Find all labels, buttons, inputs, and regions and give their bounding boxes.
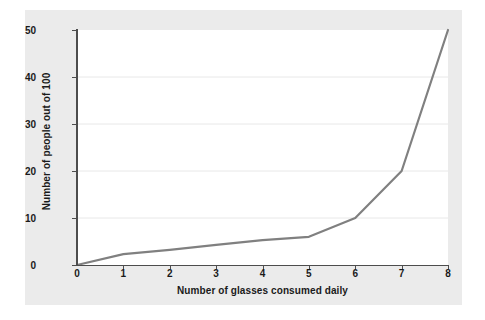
y-tick-label: 50 <box>0 25 36 36</box>
x-tick-label: 8 <box>433 268 463 279</box>
x-tick-label: 6 <box>340 268 370 279</box>
y-tick-mark <box>72 124 76 125</box>
x-tick-mark <box>309 265 310 269</box>
y-tick-mark <box>72 30 76 31</box>
figure-inner: Number of people out of 100 01020304050 … <box>25 10 462 305</box>
x-tick-label: 0 <box>62 268 92 279</box>
x-tick-label: 5 <box>294 268 324 279</box>
figure-panel: Number of people out of 100 01020304050 … <box>25 10 462 305</box>
line-series <box>77 30 448 265</box>
x-tick-mark <box>216 265 217 269</box>
y-tick-label: 20 <box>0 166 36 177</box>
plot-area <box>77 30 448 265</box>
x-tick-label: 4 <box>248 268 278 279</box>
x-tick-mark <box>402 265 403 269</box>
y-tick-mark <box>72 171 76 172</box>
x-tick-label: 1 <box>108 268 138 279</box>
x-tick-mark <box>123 265 124 269</box>
x-axis-title: Number of glasses consumed daily <box>77 285 448 296</box>
x-tick-mark <box>355 265 356 269</box>
y-tick-label: 0 <box>0 260 36 271</box>
y-tick-label: 30 <box>0 119 36 130</box>
x-tick-mark <box>170 265 171 269</box>
y-tick-label: 10 <box>0 213 36 224</box>
y-tick-mark <box>72 77 76 78</box>
x-tick-label: 3 <box>201 268 231 279</box>
y-tick-label: 40 <box>0 72 36 83</box>
x-tick-mark <box>448 265 449 269</box>
y-axis-spine <box>76 29 78 266</box>
x-tick-label: 7 <box>387 268 417 279</box>
x-tick-mark <box>263 265 264 269</box>
series-line <box>77 30 448 265</box>
y-axis-title: Number of people out of 100 <box>41 42 52 242</box>
y-tick-mark <box>72 265 76 266</box>
y-tick-mark <box>72 218 76 219</box>
x-tick-label: 2 <box>155 268 185 279</box>
